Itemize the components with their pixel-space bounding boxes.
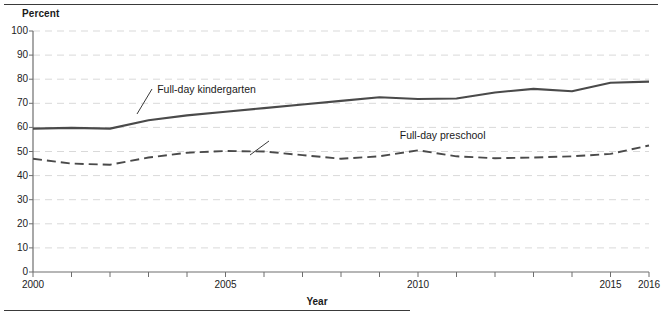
y-tick-label-0: 0 <box>2 267 28 277</box>
leader-line-kindergarten <box>137 89 152 114</box>
x-axis-title: Year <box>0 296 666 307</box>
x-tick-label-2010: 2010 <box>398 280 438 290</box>
x-tick-label-2015: 2015 <box>591 280 631 290</box>
x-tick-marks-group <box>33 272 649 277</box>
data-series-group <box>33 82 649 165</box>
y-tick-label-20: 20 <box>2 219 28 229</box>
x-tick-label-2016: 2016 <box>629 280 666 290</box>
chart-plot-area <box>0 0 666 318</box>
gridlines-group <box>33 31 649 248</box>
y-tick-label-70: 70 <box>2 98 28 108</box>
series-line-full-day-kindergarten <box>33 82 649 129</box>
annotation-full-day-preschool: Full-day preschool <box>400 129 486 141</box>
annotation-full-day-kindergarten: Full-day kindergarten <box>157 83 256 95</box>
y-tick-label-90: 90 <box>2 50 28 60</box>
y-tick-label-80: 80 <box>2 74 28 84</box>
annotation-leader-lines-group <box>137 89 269 155</box>
x-tick-label-2000: 2000 <box>13 280 53 290</box>
y-tick-label-60: 60 <box>2 122 28 132</box>
y-tick-label-50: 50 <box>2 147 28 157</box>
y-tick-label-30: 30 <box>2 195 28 205</box>
x-axis-title-text: Year <box>306 296 327 307</box>
y-tick-label-100: 100 <box>2 26 28 36</box>
y-tick-label-40: 40 <box>2 171 28 181</box>
series-line-full-day-preschool <box>33 145 649 164</box>
chart-figure: Percent 0102030405060708090100 200020052… <box>0 0 666 318</box>
leader-line-preschool <box>250 141 269 155</box>
x-tick-label-2005: 2005 <box>206 280 246 290</box>
y-tick-label-10: 10 <box>2 243 28 253</box>
